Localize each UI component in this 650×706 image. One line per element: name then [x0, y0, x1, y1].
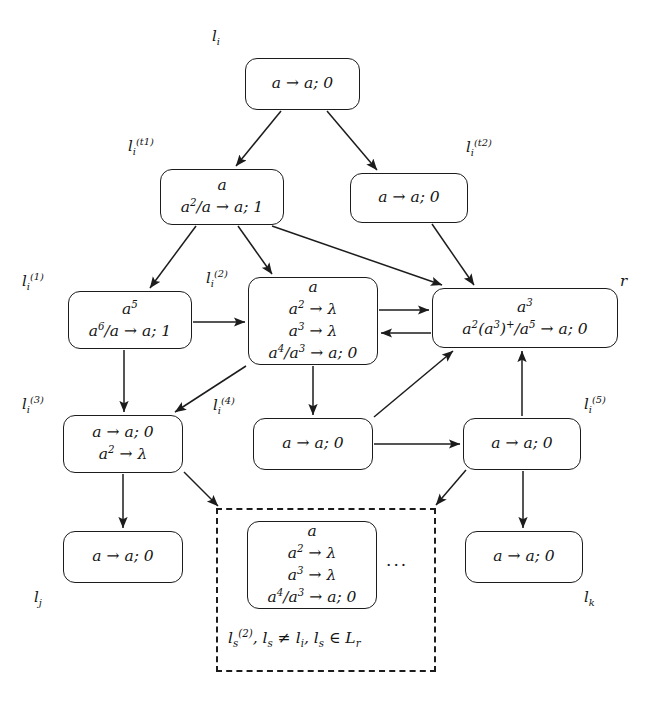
node-li-t2-label: li(t2)	[466, 137, 492, 158]
node-ls-2-line-3: a4/a3 → a; 0	[268, 586, 357, 608]
node-li-1-label: li(1)	[22, 271, 44, 292]
node-li-2-line-1: a2 → λ	[289, 298, 337, 320]
node-li-t2[interactable]: a → a; 0	[350, 173, 468, 223]
node-li-1-line-0: a5	[122, 298, 138, 320]
node-li-5[interactable]: a → a; 0	[463, 418, 581, 470]
node-r-label: r	[620, 272, 627, 290]
dashed-group-caption: ls(2), ls ≠ li, ls ∈ Lr	[228, 628, 361, 649]
node-li-4-label: li(4)	[213, 395, 235, 416]
edge-li_5-to-dashed-group	[436, 470, 466, 505]
node-li[interactable]: a → a; 0	[245, 58, 360, 110]
node-li-3-line-1: a2 → λ	[99, 443, 147, 465]
node-li-1-line-1: a6/a → a; 1	[89, 320, 171, 342]
node-li-2-line-2: a3 → λ	[289, 320, 337, 342]
node-li-2-line-3: a4/a3 → a; 0	[269, 342, 358, 364]
edge-li_3-to-dashed-group	[184, 472, 218, 506]
node-lj[interactable]: a → a; 0	[63, 531, 183, 583]
node-ls-2-line-0: a	[307, 522, 316, 542]
node-li-3-line-0: a → a; 0	[92, 423, 153, 443]
node-li-t2-line-0: a → a; 0	[378, 188, 439, 208]
node-li-3-label: li(3)	[22, 394, 44, 415]
node-lk-label: lk	[584, 588, 595, 608]
node-li-label: li	[212, 27, 220, 47]
node-li-line-0: a → a; 0	[272, 74, 333, 94]
node-li-t1-line-1: a2/a → a; 1	[181, 196, 263, 218]
edge-li_t1-to-li_2	[238, 226, 272, 274]
node-li-2-line-0: a	[308, 278, 317, 298]
edge-li_2-to-li_3	[175, 366, 246, 412]
node-lk[interactable]: a → a; 0	[465, 531, 583, 583]
caption-ls-neq: ls ≠ li,	[263, 629, 314, 647]
node-li-t1-line-0: a	[217, 176, 226, 196]
node-li-1[interactable]: a5 a6/a → a; 1	[68, 291, 192, 349]
node-ls-2[interactable]: a a2 → λ a3 → λ a4/a3 → a; 0	[247, 521, 377, 609]
edge-li-to-li_t1	[236, 111, 281, 166]
node-li-4-line-0: a → a; 0	[282, 434, 343, 454]
node-li-5-label: li(5)	[584, 394, 606, 415]
node-r[interactable]: a3 a2(a3)+/a5 → a; 0	[432, 288, 618, 348]
edge-li-to-li_t2	[327, 111, 377, 170]
node-r-line-1: a2(a3)+/a5 → a; 0	[462, 318, 587, 340]
caption-ls-in: ls ∈ Lr	[314, 629, 361, 647]
node-li-t1-label: li(t1)	[128, 136, 154, 157]
group-ellipsis: ···	[386, 555, 408, 575]
node-lk-line-0: a → a; 0	[493, 547, 554, 567]
node-ls-2-line-1: a2 → λ	[288, 542, 336, 564]
edge-li_t1-to-li_1	[150, 226, 196, 288]
node-li-5-line-0: a → a; 0	[491, 434, 552, 454]
node-lj-label: lj	[34, 588, 42, 608]
node-li-4[interactable]: a → a; 0	[253, 418, 373, 470]
node-ls-2-line-2: a3 → λ	[288, 564, 336, 586]
edge-li_t2-to-r	[432, 224, 474, 285]
caption-ls: ls(2),	[228, 629, 263, 647]
diagram-canvas: ··· ls(2), ls ≠ li, ls ∈ Lr a → a; 0 li …	[0, 0, 650, 706]
node-lj-line-0: a → a; 0	[92, 547, 153, 567]
node-li-3[interactable]: a → a; 0 a2 → λ	[63, 415, 183, 473]
node-r-line-0: a3	[517, 296, 533, 318]
node-li-2[interactable]: a a2 → λ a3 → λ a4/a3 → a; 0	[248, 277, 378, 365]
node-li-t1[interactable]: a a2/a → a; 1	[160, 169, 284, 225]
node-li-2-label: li(2)	[206, 268, 228, 289]
edge-li_4-to-r	[374, 351, 453, 417]
